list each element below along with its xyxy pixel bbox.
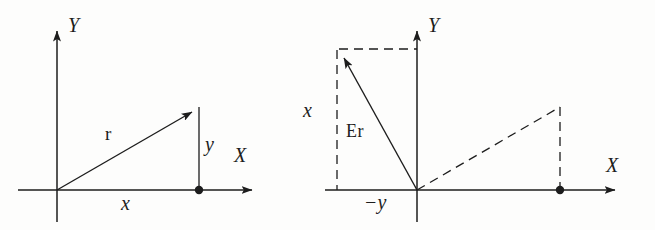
right-x-component-label: x	[303, 100, 312, 120]
right-ghost-hypotenuse	[417, 107, 560, 190]
figure-canvas	[0, 0, 655, 230]
right-y-axis-label: Y	[428, 15, 439, 35]
vector-rotation-figure: Y X r x y Y X Er x −y	[0, 0, 655, 230]
left-x-axis-label: X	[234, 145, 246, 165]
left-vector-label: r	[105, 124, 111, 143]
left-panel	[18, 31, 252, 222]
left-vector-r	[57, 112, 192, 190]
left-x-component-label: x	[121, 193, 130, 213]
left-y-axis-label: Y	[68, 15, 79, 35]
right-x-axis-label: X	[606, 155, 618, 175]
right-foot-point	[556, 186, 564, 194]
right-y-component-label: −y	[364, 192, 386, 212]
left-y-component-label: y	[205, 134, 214, 154]
right-vector-label: Er	[346, 122, 364, 140]
left-foot-point	[195, 186, 203, 194]
